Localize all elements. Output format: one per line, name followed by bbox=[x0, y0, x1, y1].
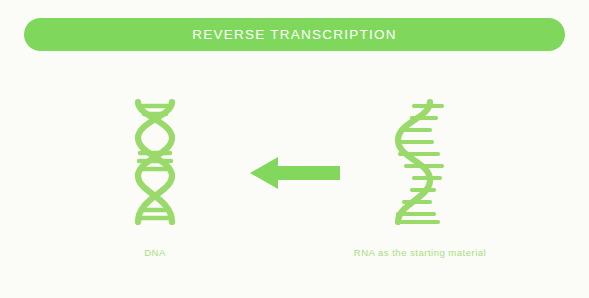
arrow-left-icon bbox=[248, 155, 342, 191]
diagram: DNA bbox=[0, 60, 589, 298]
rna-single-strand-icon bbox=[360, 98, 480, 226]
rna-label: RNA as the starting material bbox=[300, 248, 540, 258]
slide-root: REVERSE TRANSCRIPTION bbox=[0, 0, 589, 298]
page-title: REVERSE TRANSCRIPTION bbox=[192, 27, 397, 41]
dna-label: DNA bbox=[95, 248, 215, 258]
figure-dna: DNA bbox=[95, 98, 215, 258]
figure-rna: RNA as the starting material bbox=[360, 98, 480, 258]
dna-double-helix-icon bbox=[95, 98, 215, 226]
title-banner: REVERSE TRANSCRIPTION bbox=[24, 18, 565, 51]
